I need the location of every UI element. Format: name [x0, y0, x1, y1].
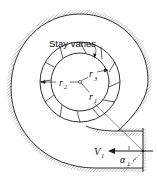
r2-label: r	[59, 77, 63, 88]
casing-hatching	[7, 10, 152, 172]
alpha1-label: α	[120, 154, 126, 165]
v1-velocity-arrow	[108, 148, 153, 154]
r3-subscript: 3	[93, 75, 98, 82]
v1-subscript: 1	[101, 152, 104, 159]
inlet-tongue	[86, 126, 143, 136]
spiral-casing-diagram: Stay vanes r 2 r 3 r 1 V 1 α 1	[0, 0, 157, 189]
r3-label: r	[89, 68, 93, 79]
r2-subscript: 2	[64, 83, 68, 90]
r1-subscript: 1	[94, 97, 97, 104]
alpha1-subscript: 1	[127, 160, 130, 167]
radius-lines	[41, 69, 143, 151]
r1-label: r	[89, 91, 93, 102]
stay-vanes-label: Stay vanes	[49, 38, 96, 49]
